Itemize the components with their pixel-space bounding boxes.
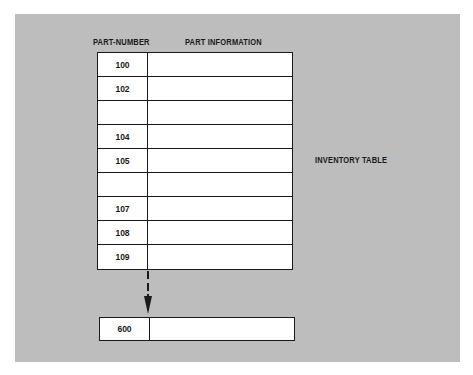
part-number-cell: 600 — [100, 318, 150, 340]
table-row: 104 — [98, 125, 292, 149]
part-number-cell: 100 — [98, 53, 148, 76]
part-information-cell — [148, 125, 292, 148]
part-number-cell: 102 — [98, 77, 148, 100]
part-number-cell: 104 — [98, 125, 148, 148]
part-number-cell: 109 — [98, 245, 148, 269]
part-number-cell: 107 — [98, 197, 148, 220]
table-row: 107 — [98, 197, 292, 221]
part-information-cell — [148, 173, 292, 196]
last-table-row: 600 — [99, 317, 295, 341]
continuation-arrow-icon — [142, 270, 154, 316]
part-information-cell — [148, 245, 292, 269]
inventory-table-label: INVENTORY TABLE — [315, 155, 387, 165]
part-information-cell — [148, 77, 292, 100]
part-number-cell: 108 — [98, 221, 148, 244]
part-information-cell — [148, 53, 292, 76]
table-row: 105 — [98, 149, 292, 173]
column-header-part-number: PART-NUMBER — [93, 37, 150, 47]
part-number-cell: 105 — [98, 149, 148, 172]
inventory-table: 100 102 104 105 107 108 109 — [97, 52, 293, 270]
table-row: 100 — [98, 53, 292, 77]
column-header-part-information: PART INFORMATION — [185, 37, 262, 47]
table-row: 109 — [98, 245, 292, 269]
table-row: 600 — [100, 318, 294, 340]
table-row — [98, 173, 292, 197]
part-information-cell — [148, 101, 292, 124]
part-information-cell — [150, 318, 294, 340]
part-information-cell — [148, 149, 292, 172]
part-number-cell — [98, 173, 148, 196]
table-row: 102 — [98, 77, 292, 101]
part-information-cell — [148, 197, 292, 220]
part-information-cell — [148, 221, 292, 244]
part-number-cell — [98, 101, 148, 124]
table-row: 108 — [98, 221, 292, 245]
table-row — [98, 101, 292, 125]
